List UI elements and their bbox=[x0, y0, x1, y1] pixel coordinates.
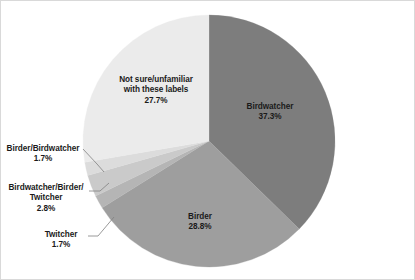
slice-label-twitcher: Twitcher 1.7% bbox=[30, 230, 92, 251]
pie-chart-frame: Birdwatcher 37.3% Birder 28.8% Not sure/… bbox=[0, 0, 415, 280]
slice-label-birdwatcher-birder-twitcher: Birdwatcher/Birder/ Twitcher 2.8% bbox=[1, 183, 91, 214]
slice-label-birdwatcher: Birdwatcher 37.3% bbox=[228, 102, 312, 123]
slice-label-not-sure-unfamiliar: Not sure/unfamiliar with these labels 27… bbox=[97, 75, 215, 106]
slice-label-birder: Birder 28.8% bbox=[161, 212, 239, 233]
slice-label-birder-birdwatcher: Birder/Birdwatcher 1.7% bbox=[3, 144, 83, 165]
